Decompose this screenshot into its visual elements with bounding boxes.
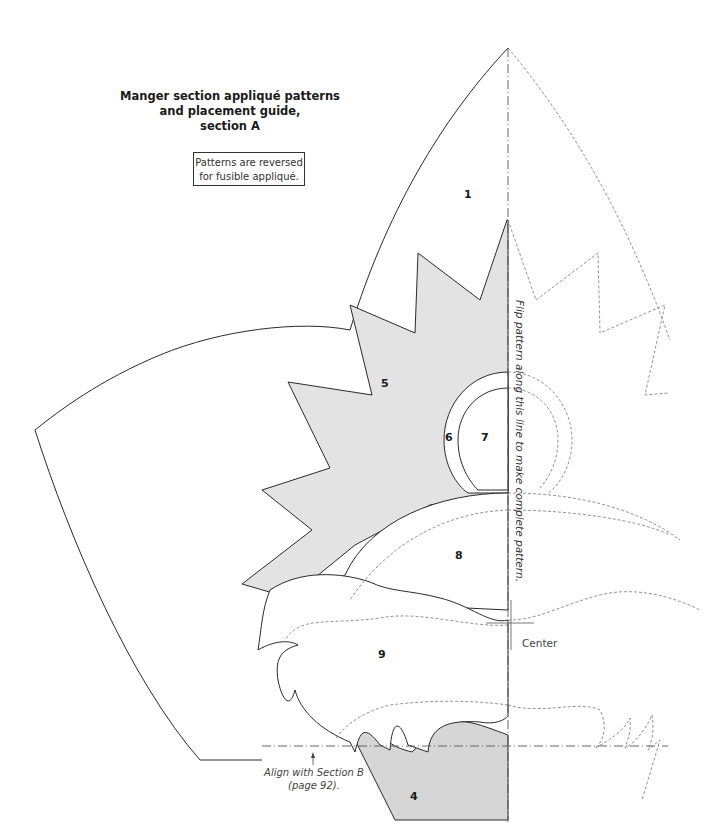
note-line-1: Patterns are reversed <box>194 156 304 170</box>
title-line-1: Manger section appliqué patterns <box>110 89 350 104</box>
piece-label-6: 6 <box>445 431 453 444</box>
mirror-dashed-outline <box>508 48 700 800</box>
diagram-title: Manger section appliqué patterns and pla… <box>110 89 350 134</box>
center-label: Center <box>522 637 557 649</box>
title-line-2: and placement guide, <box>110 104 350 119</box>
piece-label-8: 8 <box>455 549 463 562</box>
align-note-line-2: (page 92). <box>254 779 374 792</box>
align-note-line-1: Align with Section B <box>254 766 374 779</box>
piece-label-1: 1 <box>464 188 472 201</box>
piece-label-9: 9 <box>378 648 386 661</box>
align-note: Align with Section B (page 92). <box>254 766 374 792</box>
note-line-2: for fusible appliqué. <box>194 170 304 184</box>
piece-label-5: 5 <box>381 377 389 390</box>
pattern-diagram <box>0 0 706 840</box>
align-arrowhead <box>311 752 315 758</box>
flip-instruction: Flip pattern along this line to make com… <box>514 300 526 582</box>
reversed-note-box: Patterns are reversed for fusible appliq… <box>193 152 305 186</box>
piece-label-7: 7 <box>481 431 489 444</box>
piece-label-4: 4 <box>410 790 418 803</box>
title-line-3: section A <box>110 119 350 134</box>
